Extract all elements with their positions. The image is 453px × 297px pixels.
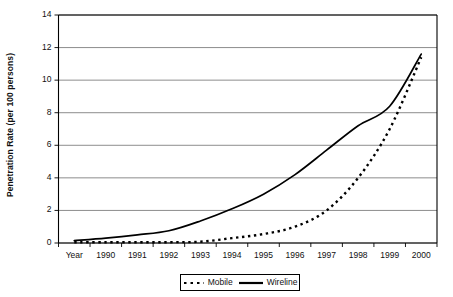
chart-container: Penetration Rate (per 100 persons) 14121… (0, 0, 453, 297)
plot-frame (59, 15, 438, 243)
legend-item-mobile: Mobile (183, 278, 233, 287)
data-series (74, 54, 421, 242)
plot-area (0, 0, 453, 297)
chart-legend: Mobile Wireline (180, 274, 300, 291)
y-axis-tick-marks (55, 15, 59, 243)
dotted-line-icon (183, 280, 205, 286)
legend-label-wireline: Wireline (267, 278, 298, 287)
gridlines (59, 15, 438, 243)
legend-label-mobile: Mobile (208, 278, 233, 287)
x-axis-tick-marks (59, 243, 438, 247)
legend-item-wireline: Wireline (238, 278, 298, 287)
solid-line-icon (238, 280, 264, 286)
